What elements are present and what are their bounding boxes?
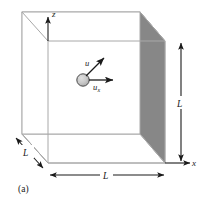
cube-back-face	[22, 12, 140, 134]
velocity-u-label: u	[85, 58, 89, 68]
x-axis-label: x	[191, 158, 196, 168]
gas-particle	[77, 74, 89, 86]
dimension-label-depth: L	[22, 148, 28, 158]
dimension-label-height: L	[176, 99, 182, 109]
figure-container: z x u ux L L L (a)	[0, 0, 205, 202]
gas-in-box-diagram: z x u ux L L L (a)	[0, 0, 205, 202]
figure-caption: (a)	[18, 184, 29, 195]
velocity-ux-subscript: x	[97, 87, 101, 93]
dimension-label-width: L	[102, 171, 108, 181]
z-axis-label: z	[51, 9, 56, 19]
